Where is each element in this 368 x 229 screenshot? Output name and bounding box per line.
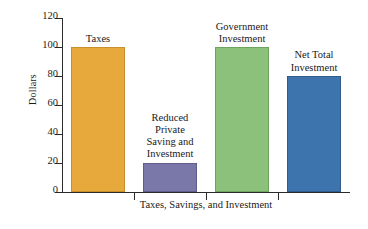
- bar-label: Net TotalInvestment: [291, 49, 338, 73]
- bar: GovernmentInvestment: [215, 47, 269, 192]
- bar-label-line: Investment: [216, 33, 269, 45]
- bar: Net TotalInvestment: [287, 76, 341, 192]
- bar-label-line: Net Total: [291, 49, 338, 61]
- bar-label-line: Investment: [291, 62, 338, 74]
- bar-chart: Dollars 020406080100120 TaxesReducedPriv…: [0, 0, 368, 229]
- bar-label: ReducedPrivateSaving andInvestment: [147, 112, 194, 161]
- bar-label-line: Investment: [147, 148, 194, 160]
- bar-label-line: Reduced: [147, 112, 194, 124]
- y-tick-label: 80: [28, 68, 58, 79]
- y-axis-line: [62, 18, 63, 193]
- x-axis-label: Taxes, Savings, and Investment: [62, 199, 350, 210]
- y-tick-label: 60: [28, 97, 58, 108]
- y-tick-label: 120: [28, 10, 58, 21]
- bar-label-line: Private: [147, 124, 194, 136]
- plot-area: 020406080100120 TaxesReducedPrivateSavin…: [62, 18, 350, 193]
- y-tick-label: 40: [28, 126, 58, 137]
- bar-label-line: Saving and: [147, 136, 194, 148]
- bar-label: Taxes: [86, 33, 110, 45]
- bar-label: GovernmentInvestment: [216, 21, 269, 45]
- y-tick-label: 20: [28, 155, 58, 166]
- bar: ReducedPrivateSaving andInvestment: [143, 163, 197, 192]
- y-tick-label: 0: [28, 184, 58, 195]
- bar-label-line: Taxes: [86, 33, 110, 45]
- bar-label-line: Government: [216, 21, 269, 33]
- bar: Taxes: [71, 47, 125, 192]
- y-tick-label: 100: [28, 39, 58, 50]
